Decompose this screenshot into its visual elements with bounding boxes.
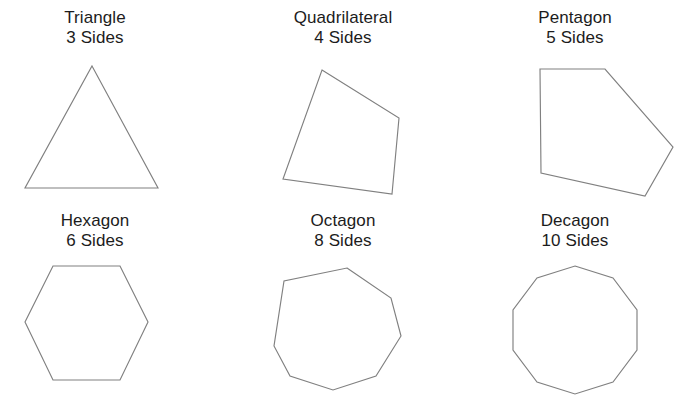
polygon-hexagon [25, 266, 148, 380]
polygon-decagon [513, 266, 637, 394]
shape-cell-octagon: Octagon 8 Sides [232, 203, 464, 405]
polygon-quadrilateral [283, 70, 399, 194]
polygon-pentagon [540, 69, 673, 196]
shape-cell-decagon: Decagon 10 Sides [464, 203, 696, 405]
polygons-figure: Triangle 3 Sides Quadrilateral 4 Sides P… [0, 0, 697, 405]
shape-cell-hexagon: Hexagon 6 Sides [0, 203, 232, 405]
polygon-triangle [25, 66, 158, 188]
shape-drawing-octagon [232, 203, 464, 405]
shape-drawing-triangle [0, 0, 232, 202]
shape-drawing-decagon [464, 203, 696, 405]
shape-cell-pentagon: Pentagon 5 Sides [464, 0, 696, 202]
shape-drawing-pentagon [464, 0, 696, 202]
shape-drawing-hexagon [0, 203, 232, 405]
shape-drawing-quadrilateral [232, 0, 464, 202]
polygon-octagon [274, 268, 401, 390]
shape-cell-quadrilateral: Quadrilateral 4 Sides [232, 0, 464, 202]
shape-cell-triangle: Triangle 3 Sides [0, 0, 232, 202]
